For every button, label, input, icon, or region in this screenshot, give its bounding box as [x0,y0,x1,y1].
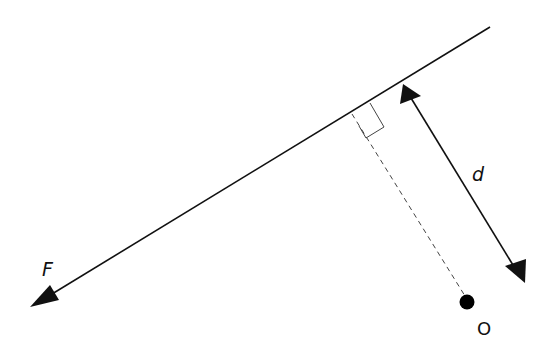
force-label: F [42,258,53,280]
distance-arrowhead-top-icon [400,84,421,104]
distance-label: d [472,163,484,185]
moment-diagram: F d O [0,0,560,346]
pivot-point-dot [460,295,475,310]
right-angle-marker [359,103,384,138]
force-arrowhead-icon [30,285,59,307]
distance-line [411,98,516,270]
force-line [52,27,490,294]
point-label: O [477,318,491,339]
perpendicular-dashed-line [352,114,465,296]
distance-arrowhead-bottom-icon [505,259,526,283]
